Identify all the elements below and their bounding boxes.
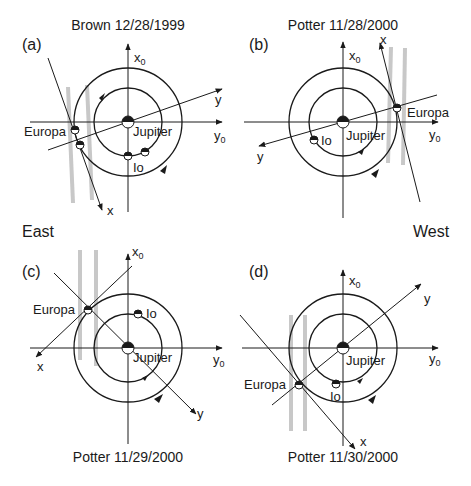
europa-label: Europa [244,377,287,392]
orbit-direction-arrow-icon [368,395,376,404]
x-axis-label: x [107,203,114,218]
west-label: West [413,223,450,240]
europa-icon [295,381,303,389]
io-icon [124,152,132,160]
io-icon [310,136,318,144]
panel-a-label: (a) [22,36,42,53]
io-label: Io [321,133,332,148]
europa-icon [71,126,79,134]
x0-axis-label: x0 [132,244,144,261]
panel-b-caption: Potter 11/28/2000 [288,17,398,33]
io-label: Io [146,306,157,321]
panel-d-caption: Potter 11/30/2000 [288,449,398,465]
jupiter-label: Jupiter [133,350,173,365]
slit-bar [388,47,391,163]
europa-label: Europa [33,302,76,317]
panel-a-caption: Brown 12/28/1999 [71,17,185,33]
orbit-direction-arrow-icon [154,394,163,403]
panel-a: Brown 12/28/1999 (a) [22,17,226,218]
slit-bar [87,85,92,200]
panel-d: (d) Europa Jupiter Io x0 y0 y x Potter [240,263,441,465]
x-axis-label: x [37,359,44,374]
orbit-direction-arrow-icon [371,169,379,178]
y-axis-label: y [215,92,222,107]
panel-c-caption: Potter 11/29/2000 [73,449,183,465]
panel-d-label: (d) [249,263,269,280]
y0-axis-label: y0 [429,127,441,144]
europa-icon [76,141,84,149]
jupiter-label: Jupiter [346,128,386,143]
jupiter-label: Jupiter [133,124,173,139]
x0-axis-label: x0 [134,50,146,67]
panel-c: (c) Europa Jupiter Io x0 y0 y x Potter [22,244,225,465]
slit-bar [403,48,405,165]
io-icon [141,148,149,156]
y0-axis-label: y0 [429,351,441,368]
io-label: Io [133,160,144,175]
east-label: East [22,223,55,240]
orbit-direction-arrow-icon [160,165,167,174]
x-axis-label: x [380,32,387,47]
x0-axis-label: x0 [349,48,361,65]
europa-icon [393,104,401,112]
europa-label: Europa [24,124,67,139]
europa-icon [84,306,92,314]
slit-bar [68,87,73,203]
panel-b: Potter 11/28/2000 (b) Europa Jupiter Io … [244,17,450,218]
orbit-direction-arrow-icon [142,375,148,381]
io-icon [134,310,142,318]
y0-axis-label: y0 [213,352,225,369]
x-axis-label: x [360,434,367,449]
y-axis-label: y [424,291,431,306]
jupiter-icon [337,116,349,128]
y-axis-label: y [257,149,264,164]
jupiter-moons-diagram: Brown 12/28/1999 (a) [0,0,471,486]
x0-axis-label: x0 [349,273,361,290]
y0-axis-label: y0 [214,128,226,145]
io-label: Io [330,389,341,404]
orbit-direction-arrow-icon [358,149,364,155]
jupiter-label: Jupiter [346,353,386,368]
panel-c-label: (c) [22,263,41,280]
panel-b-label: (b) [249,36,269,53]
europa-label: Europa [407,105,450,120]
y-axis-label: y [197,406,204,421]
io-icon [332,380,340,388]
